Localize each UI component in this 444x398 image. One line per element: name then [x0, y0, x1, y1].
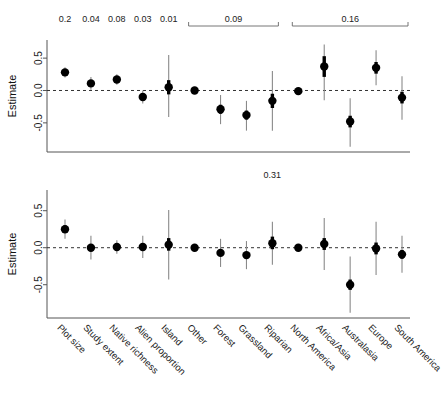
estimate-point — [139, 236, 147, 258]
point-marker — [190, 86, 198, 94]
point-marker — [398, 93, 406, 101]
point-marker — [268, 239, 276, 247]
estimate-point — [242, 101, 250, 131]
point-marker — [398, 250, 406, 258]
y-tick-label: 0.5 — [33, 203, 44, 217]
annotation-value: 0.2 — [59, 14, 72, 24]
point-marker — [113, 75, 121, 83]
estimate-point — [61, 67, 69, 77]
point-marker — [87, 244, 95, 252]
point-marker — [242, 251, 250, 259]
axis-frame — [47, 40, 410, 152]
point-marker — [242, 111, 250, 119]
estimate-point — [346, 257, 354, 313]
point-marker — [139, 243, 147, 251]
category-label: Forest — [211, 322, 238, 349]
estimate-point — [113, 74, 121, 84]
panel-top: 0.20.040.080.030.010.090.160.50.0-0.5Est… — [0, 0, 419, 175]
annotation-value: 0.04 — [82, 14, 100, 24]
annotation-value: 0.09 — [225, 14, 243, 24]
annotation-value: 0.08 — [108, 14, 126, 24]
point-marker — [294, 87, 302, 95]
estimate-point — [372, 222, 380, 275]
point-marker — [61, 225, 69, 233]
estimate-point — [268, 71, 276, 131]
annotation-value: 0.31 — [264, 170, 282, 180]
estimate-point — [190, 86, 198, 94]
annotation-value: 0.16 — [341, 14, 359, 24]
y-tick-label: 0.5 — [33, 51, 44, 65]
panel-bottom: 0.310.50.0-0.5Estimate — [0, 170, 419, 330]
point-marker — [190, 244, 198, 252]
estimate-point — [61, 220, 69, 239]
estimate-point — [294, 244, 302, 252]
point-marker — [164, 241, 172, 249]
point-marker — [372, 244, 380, 252]
point-marker — [113, 243, 121, 251]
y-tick-label: -0.5 — [33, 114, 44, 132]
estimate-point — [294, 87, 302, 95]
estimate-point — [346, 98, 354, 147]
y-tick-label: 0.0 — [33, 83, 44, 97]
point-marker — [268, 97, 276, 105]
estimate-point — [372, 50, 380, 85]
y-tick-label: -0.5 — [33, 276, 44, 294]
estimate-point — [139, 90, 147, 103]
estimate-point — [87, 236, 95, 260]
estimate-point — [113, 240, 121, 253]
point-marker — [320, 240, 328, 248]
annotation-value: 0.01 — [160, 14, 178, 24]
estimate-point — [320, 218, 328, 270]
estimate-point — [398, 236, 406, 273]
point-marker — [346, 117, 354, 125]
point-marker — [61, 68, 69, 76]
point-marker — [320, 62, 328, 70]
point-marker — [346, 281, 354, 289]
axis-frame — [47, 190, 410, 318]
point-marker — [294, 244, 302, 252]
estimate-point — [164, 210, 172, 280]
panel-top-canvas: 0.20.040.080.030.010.090.160.50.0-0.5Est… — [0, 0, 419, 175]
category-label: South America — [392, 322, 443, 373]
estimate-point — [87, 77, 95, 90]
estimate-point — [398, 76, 406, 119]
estimate-point — [216, 95, 224, 124]
point-marker — [216, 249, 224, 257]
y-axis-title: Estimate — [6, 233, 18, 276]
panel-bottom-canvas: 0.310.50.0-0.5Estimate — [0, 170, 419, 330]
annotation-value: 0.03 — [134, 14, 152, 24]
point-marker — [164, 83, 172, 91]
point-marker — [87, 79, 95, 87]
point-marker — [372, 64, 380, 72]
category-label: Other — [185, 322, 210, 347]
estimate-point — [190, 244, 198, 252]
point-marker — [139, 93, 147, 101]
y-tick-label: 0.0 — [33, 240, 44, 254]
point-marker — [216, 105, 224, 113]
y-axis-title: Estimate — [6, 75, 18, 118]
estimate-point — [164, 55, 172, 117]
estimate-point — [268, 222, 276, 265]
category-axis-labels: Plot sizeStudy extentNative richnessAlie… — [0, 318, 419, 398]
estimate-point — [320, 45, 328, 101]
estimate-point — [216, 239, 224, 267]
estimate-point — [242, 241, 250, 269]
